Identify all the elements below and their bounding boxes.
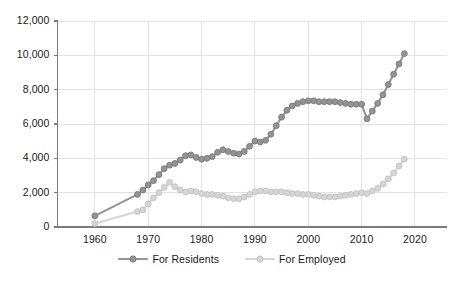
x-tick-label: 2020: [385, 233, 445, 245]
data-point-marker: [167, 179, 173, 185]
data-point-marker: [215, 192, 221, 198]
chart-series: [92, 51, 407, 227]
data-point-marker: [391, 170, 397, 176]
data-point-marker: [252, 189, 258, 195]
data-point-marker: [225, 195, 231, 201]
y-tick-label: 10,000: [0, 48, 50, 60]
legend-item-for-employed[interactable]: For Employed: [245, 253, 346, 265]
y-tick-label: 2,000: [0, 186, 50, 198]
chart-legend: For ResidentsFor Employed: [0, 253, 464, 265]
data-point-marker: [401, 156, 407, 162]
data-point-marker: [385, 176, 391, 182]
data-point-marker: [209, 154, 215, 160]
data-point-marker: [401, 51, 407, 57]
data-point-marker: [247, 143, 253, 149]
data-point-marker: [145, 201, 151, 207]
y-tick-label: 8,000: [0, 83, 50, 95]
data-point-marker: [396, 163, 402, 169]
x-tick-label: 2000: [278, 233, 338, 245]
data-point-marker: [305, 191, 311, 197]
data-point-marker: [156, 172, 162, 178]
data-point-marker: [161, 166, 167, 172]
y-tick-label: 0: [0, 220, 50, 232]
data-point-marker: [252, 138, 258, 144]
data-point-marker: [375, 101, 381, 107]
data-point-marker: [172, 161, 178, 167]
data-point-marker: [396, 61, 402, 67]
data-point-marker: [359, 190, 365, 196]
x-tick-label: 1980: [172, 233, 232, 245]
chart-container: 02,0004,0006,0008,00010,00012,000 196019…: [0, 0, 464, 282]
data-point-marker: [279, 189, 285, 195]
data-point-marker: [199, 156, 205, 162]
data-point-marker: [183, 189, 189, 195]
legend-label: For Employed: [279, 253, 346, 265]
data-point-marker: [135, 191, 141, 197]
x-tick-label: 1990: [225, 233, 285, 245]
data-point-marker: [364, 116, 370, 122]
legend-label: For Residents: [152, 253, 219, 265]
data-point-marker: [343, 101, 349, 107]
data-point-marker: [380, 92, 386, 98]
data-point-marker: [284, 190, 290, 196]
data-point-marker: [391, 71, 397, 77]
data-point-marker: [332, 99, 338, 105]
y-tick-label: 12,000: [0, 14, 50, 26]
data-point-marker: [300, 99, 306, 105]
data-point-marker: [295, 191, 301, 197]
data-point-marker: [156, 190, 162, 196]
data-point-marker: [151, 195, 157, 201]
y-tick-label: 4,000: [0, 151, 50, 163]
data-point-marker: [241, 149, 247, 155]
data-point-marker: [348, 191, 354, 197]
data-point-marker: [177, 157, 183, 163]
legend-marker-icon: [245, 253, 275, 265]
data-point-marker: [337, 100, 343, 106]
data-point-marker: [140, 187, 146, 193]
data-point-marker: [151, 178, 157, 184]
data-point-marker: [231, 150, 237, 156]
data-point-marker: [279, 114, 285, 120]
legend-marker-icon: [118, 253, 148, 265]
data-point-marker: [92, 221, 98, 227]
data-point-marker: [183, 153, 189, 159]
x-tick-label: 1960: [65, 233, 125, 245]
x-tick-label: 2010: [332, 233, 392, 245]
y-tick-label: 6,000: [0, 117, 50, 129]
data-point-marker: [199, 191, 205, 197]
legend-item-for-residents[interactable]: For Residents: [118, 253, 219, 265]
data-point-marker: [273, 123, 279, 129]
data-point-marker: [284, 107, 290, 113]
data-point-marker: [369, 108, 375, 114]
data-point-marker: [337, 193, 343, 199]
data-point-marker: [161, 185, 167, 191]
data-point-marker: [375, 185, 381, 191]
data-point-marker: [311, 192, 317, 198]
data-point-marker: [359, 101, 365, 107]
data-point-marker: [311, 98, 317, 104]
data-point-marker: [263, 188, 269, 194]
x-tick-label: 1970: [118, 233, 178, 245]
data-point-marker: [332, 194, 338, 200]
data-point-marker: [385, 82, 391, 88]
data-point-marker: [316, 193, 322, 199]
data-point-marker: [140, 207, 146, 213]
data-point-marker: [353, 191, 359, 197]
data-point-marker: [263, 137, 269, 143]
data-point-marker: [268, 131, 274, 137]
data-point-marker: [209, 191, 215, 197]
data-point-marker: [145, 182, 151, 188]
data-point-marker: [380, 181, 386, 187]
data-point-marker: [92, 213, 98, 219]
data-point-marker: [172, 184, 178, 190]
data-point-marker: [343, 192, 349, 198]
series-for-employed: [92, 156, 407, 226]
data-point-marker: [188, 188, 194, 194]
